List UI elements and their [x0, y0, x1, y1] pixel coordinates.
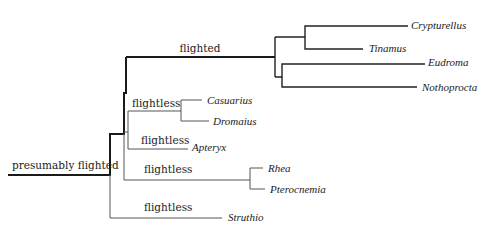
taxon-eudroma: Eudroma — [427, 56, 469, 68]
eudroma-branch — [275, 64, 425, 77]
root-branch: presumably flighted — [8, 57, 126, 175]
apteryx-label: flightless — [141, 134, 189, 146]
casuarius-dromaius-label: flightless — [132, 97, 180, 109]
phylogenetic-tree: presumably flighted flighted Crypturellu… — [0, 0, 486, 230]
flighted-label: flighted — [179, 42, 220, 54]
root-path — [8, 57, 126, 175]
taxon-casuarius: Casuarius — [207, 94, 252, 106]
struthio-branch-group: flightless Struthio — [110, 175, 264, 223]
rhea-clade-label: flightless — [144, 163, 192, 175]
australasian-ratite-clade: flightless Casuarius Dromaius flightless… — [124, 94, 257, 153]
taxon-crypturellus: Crypturellus — [411, 19, 466, 31]
struthio-label: flightless — [144, 201, 192, 213]
tinamou-clade: flighted Crypturellus Tinamus Eudroma No… — [126, 19, 478, 93]
nothoprocta-branch — [282, 77, 417, 87]
taxon-dromaius: Dromaius — [212, 115, 257, 127]
taxon-rhea: Rhea — [267, 162, 291, 174]
crypturellus-branch — [275, 26, 408, 37]
tinamus-branch — [305, 37, 363, 49]
taxon-pterocnemia: Pterocnemia — [269, 183, 326, 195]
root-label: presumably flighted — [12, 159, 119, 171]
taxon-apteryx: Apteryx — [191, 141, 226, 153]
taxon-tinamus: Tinamus — [369, 42, 406, 54]
taxon-struthio: Struthio — [228, 211, 264, 223]
taxon-nothoprocta: Nothoprocta — [421, 81, 478, 93]
